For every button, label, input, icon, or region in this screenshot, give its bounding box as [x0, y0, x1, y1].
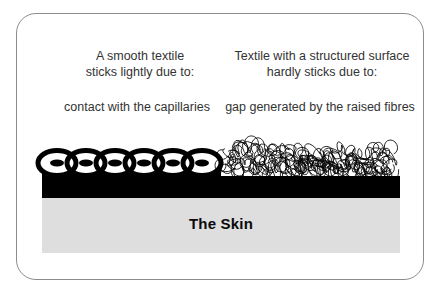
skin-label: The Skin	[42, 215, 400, 232]
textile-skin-illustration	[0, 0, 439, 293]
smooth-textile-graphic	[38, 151, 221, 176]
textile-skin-diagram: A smooth textile sticks lightly due to: …	[0, 0, 439, 293]
